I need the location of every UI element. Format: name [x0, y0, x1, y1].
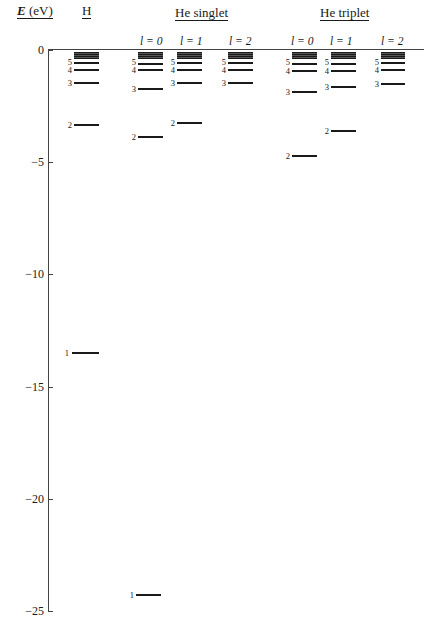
level-triplet-l0-n3	[292, 91, 317, 93]
level-singlet-l2-n4	[228, 69, 253, 71]
level-singlet-l1-n2	[177, 122, 202, 124]
col-label-triplet-l0: l = 0	[291, 35, 313, 47]
level-singlet-l1-n4	[177, 69, 202, 71]
label-singlet-l0-n2: 2	[128, 133, 136, 141]
label-triplet-l2-n4: 4	[371, 66, 379, 74]
triplet-l0-high-n-band	[292, 52, 317, 59]
tick-minus25	[48, 611, 53, 612]
label-h-n3: 3	[64, 79, 72, 87]
label-triplet-l0-n2: 2	[282, 152, 290, 160]
level-triplet-l2-n4	[381, 69, 405, 71]
tick-label-minus5: −5	[4, 155, 44, 170]
singlet-l0-high-n-band	[138, 52, 163, 59]
label-h-n4: 4	[64, 66, 72, 74]
label-singlet-l2-n3: 3	[218, 79, 226, 87]
zero-energy-line	[48, 49, 424, 50]
label-singlet-l0-n4: 4	[128, 66, 136, 74]
level-singlet-l0-n4	[138, 69, 163, 71]
level-triplet-l1-n2	[331, 130, 356, 132]
level-singlet-l0-n1	[136, 594, 161, 596]
he-singlet-title: He singlet	[175, 6, 228, 21]
level-singlet-l2-n5	[228, 62, 253, 64]
level-singlet-l1-n3	[177, 82, 202, 84]
triplet-l1-high-n-band	[331, 52, 356, 59]
level-singlet-l0-n3	[138, 88, 163, 90]
energy-axis	[48, 50, 49, 612]
singlet-l1-high-n-band	[177, 52, 202, 59]
tick-label-minus20: −20	[4, 492, 44, 507]
tick-minus15	[48, 387, 53, 388]
col-label-triplet-l1: l = 1	[330, 35, 352, 47]
tick-minus10	[48, 274, 53, 275]
label-singlet-l0-n1: 1	[126, 591, 134, 599]
label-triplet-l0-n3: 3	[282, 88, 290, 96]
col-label-singlet-l0: l = 0	[140, 35, 162, 47]
label-triplet-l1-n5: 5	[321, 58, 329, 66]
level-triplet-l0-n5	[292, 63, 317, 65]
level-singlet-l0-n5	[138, 63, 163, 65]
level-h-n3	[74, 82, 99, 84]
energy-symbol: E	[17, 3, 26, 18]
label-singlet-l1-n4: 4	[167, 66, 175, 74]
level-triplet-l2-n3	[381, 83, 405, 85]
label-singlet-l1-n2: 2	[167, 119, 175, 127]
label-triplet-l2-n3: 3	[371, 80, 379, 88]
tick-0	[48, 50, 53, 51]
label-h-n2: 2	[64, 121, 72, 129]
level-h-n4	[74, 69, 99, 71]
level-singlet-l1-n5	[177, 62, 202, 64]
hydrogen-column-title: H	[82, 4, 91, 19]
triplet-l2-high-n-band	[381, 52, 405, 59]
level-triplet-l0-n2	[292, 155, 317, 157]
level-triplet-l1-n3	[331, 86, 356, 88]
level-h-n5	[74, 62, 99, 64]
label-h-n1: 1	[61, 349, 69, 357]
col-label-singlet-l1: l = 1	[180, 35, 202, 47]
label-singlet-l0-n3: 3	[128, 85, 136, 93]
col-label-singlet-l2: l = 2	[229, 35, 251, 47]
level-triplet-l2-n5	[381, 62, 405, 64]
energy-unit: (eV)	[29, 3, 53, 18]
label-triplet-l1-n3: 3	[321, 83, 329, 91]
label-triplet-l1-n2: 2	[321, 127, 329, 135]
tick-label-minus10: −10	[4, 267, 44, 282]
energy-axis-title: E (eV)	[17, 4, 53, 19]
level-triplet-l1-n5	[331, 63, 356, 65]
level-triplet-l0-n4	[292, 70, 317, 72]
label-singlet-l1-n3: 3	[167, 79, 175, 87]
singlet-l2-high-n-band	[228, 52, 253, 59]
label-singlet-l2-n4: 4	[218, 66, 226, 74]
level-singlet-l0-n2	[138, 136, 163, 138]
level-h-n2	[74, 124, 99, 126]
col-label-triplet-l2: l = 2	[381, 35, 403, 47]
tick-label-0: 0	[4, 43, 44, 58]
level-triplet-l1-n4	[331, 70, 356, 72]
he-triplet-title: He triplet	[320, 6, 369, 21]
tick-minus20	[48, 499, 53, 500]
tick-label-minus15: −15	[4, 380, 44, 395]
level-singlet-l2-n3	[228, 82, 253, 84]
label-triplet-l1-n4: 4	[321, 67, 329, 75]
label-triplet-l0-n5: 5	[282, 58, 290, 66]
tick-minus5	[48, 162, 53, 163]
tick-label-minus25: −25	[4, 604, 44, 619]
hydrogen-high-n-band	[74, 52, 99, 59]
level-h-n1	[72, 352, 99, 354]
label-triplet-l0-n4: 4	[282, 67, 290, 75]
